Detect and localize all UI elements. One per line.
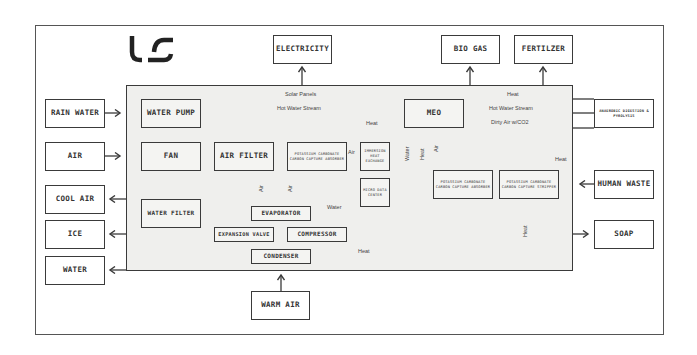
label-heat-stripper: Heat: [522, 225, 528, 237]
label-hot-water-stream: Hot Water Stream: [277, 105, 321, 111]
pc-absorber-2-box: POTASSIUM CARBONATE CARBON CAPTURE ABSOR…: [433, 170, 493, 199]
label-solar-panels: Solar Panels: [285, 91, 316, 97]
label-dirty-air: Dirty Air w/CO2: [491, 119, 529, 125]
label-heat-immersion: Heat: [366, 120, 378, 126]
evaporator-box: EVAPORATOR: [251, 206, 311, 221]
label-heat-meo: Heat: [507, 91, 519, 97]
output-fertilizer: FERTILZER: [514, 35, 573, 64]
pc-stripper-box: POTASSIUM CARBONATE CARBON CAPTURE STRIP…: [499, 170, 559, 199]
input-human-waste: HUMAN WASTE: [594, 170, 654, 199]
output-ice: ICE: [45, 220, 105, 249]
pc-absorber-1-box: POTASSIUM CARBONATE CARBON CAPTURE ABSOR…: [287, 142, 347, 171]
system-diagram: ELECTRICITY BIO GAS FERTILZER RAIN WATER…: [0, 0, 697, 355]
label-hot-water-stream-meo: Hot Water Stream: [489, 105, 533, 111]
label-heat-right: Heat: [555, 156, 567, 162]
micro-data-center-box: MICRO DATA CENTER: [360, 178, 390, 207]
label-water-evaporator: Water: [327, 204, 341, 210]
meo-box: MEO: [404, 99, 464, 128]
input-warm-air: WARM AIR: [251, 291, 310, 320]
label-heat-vertical: Heat: [419, 148, 425, 160]
immersion-heat-exchange-box: IMMERSION HEAT EXCHANGE: [360, 142, 390, 171]
label-air-vertical-2: Air: [287, 185, 293, 192]
output-bio-gas: BIO GAS: [441, 35, 500, 64]
compressor-box: COMPRESSOR: [287, 227, 347, 242]
output-soap: SOAP: [594, 220, 654, 249]
label-heat-condenser: Heat: [358, 248, 370, 254]
input-rain-water: RAIN WATER: [45, 99, 105, 128]
input-air: AIR: [45, 142, 105, 171]
label-air-pc: Air: [348, 149, 355, 155]
ls-logo-icon: [128, 34, 178, 64]
fan-box: FAN: [141, 142, 201, 171]
output-electricity: ELECTRICITY: [273, 35, 332, 64]
label-water-vertical: Water: [404, 147, 410, 161]
anaerobic-digestion-box: ANAEROBIC DIGESTION & PYROLYSIS: [594, 99, 654, 128]
output-water: WATER: [45, 256, 105, 285]
label-air-vertical-3: Air: [433, 145, 439, 152]
water-pump-box: WATER PUMP: [141, 99, 201, 128]
condenser-box: CONDENSER: [251, 249, 311, 264]
label-air-vertical-1: Air: [258, 185, 264, 192]
output-cool-air: COOL AIR: [45, 185, 105, 214]
expansion-valve-box: EXPANSION VALVE: [214, 227, 274, 242]
water-filter-box: WATER FILTER: [141, 199, 201, 228]
air-filter-box: AIR FILTER: [214, 142, 274, 171]
